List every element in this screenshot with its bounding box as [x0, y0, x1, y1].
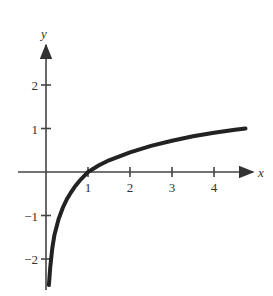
x-tick-label: 2 — [127, 180, 134, 195]
x-tick-label: 3 — [169, 180, 176, 195]
y-tick-label: 2 — [32, 78, 39, 93]
x-tick-label: 1 — [85, 180, 92, 195]
y-tick-label: −1 — [24, 209, 38, 224]
x-axis-label: x — [257, 165, 264, 180]
x-tick-label: 4 — [211, 180, 218, 195]
y-tick-label: −2 — [24, 252, 38, 267]
y-axis-label: y — [39, 26, 47, 41]
chart-canvas: 1234 −2−112 x y — [0, 0, 273, 296]
data-curve — [49, 129, 246, 286]
y-tick-label: 1 — [32, 122, 39, 137]
